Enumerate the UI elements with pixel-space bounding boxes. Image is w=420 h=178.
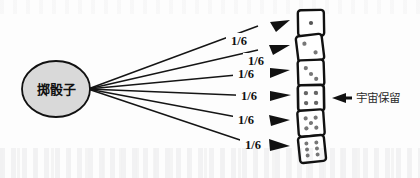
die-face-2[interactable] bbox=[296, 34, 325, 63]
die-body bbox=[298, 135, 327, 164]
branch-line-5 bbox=[88, 89, 258, 121]
branch-arrowheads bbox=[269, 20, 291, 151]
arrowhead-icon-3 bbox=[270, 68, 290, 78]
diagram-canvas: 掷骰子 1/6 1/6 1/6 1/6 1/6 1/6 bbox=[0, 0, 420, 178]
arrowhead-icon-4 bbox=[270, 91, 291, 101]
probability-label-5: 1/6 bbox=[238, 113, 254, 127]
left-arrow-icon bbox=[332, 93, 346, 103]
arrowhead-icon-1 bbox=[270, 20, 290, 32]
die-face-5[interactable] bbox=[297, 109, 325, 137]
branch-line-4 bbox=[88, 89, 258, 96]
annotation-callout[interactable]: 宇宙保留 bbox=[332, 91, 400, 105]
probability-label-2: 1/6 bbox=[248, 54, 264, 68]
arrowhead-icon-6 bbox=[269, 139, 290, 151]
die-face-3[interactable] bbox=[298, 60, 325, 87]
probability-label-6: 1/6 bbox=[245, 138, 261, 152]
branch-line-3 bbox=[88, 73, 258, 89]
die-body bbox=[296, 34, 325, 63]
die-body bbox=[298, 85, 324, 111]
branch-line-2 bbox=[88, 50, 258, 89]
probability-label-1: 1/6 bbox=[231, 34, 247, 48]
left-arrow-shaft bbox=[345, 97, 352, 100]
probability-label-3: 1/6 bbox=[238, 67, 254, 81]
probability-label-4: 1/6 bbox=[241, 89, 257, 103]
branch-line-6 bbox=[88, 89, 258, 146]
probability-labels: 1/6 1/6 1/6 1/6 1/6 1/6 bbox=[226, 33, 269, 152]
probability-tree-diagram: 掷骰子 1/6 1/6 1/6 1/6 1/6 1/6 bbox=[0, 0, 420, 178]
arrowhead-icon-2 bbox=[269, 45, 290, 55]
die-face-1[interactable] bbox=[298, 10, 324, 36]
die-face-4[interactable] bbox=[298, 85, 324, 111]
die-face-6[interactable] bbox=[298, 135, 327, 164]
outcome-dice bbox=[296, 10, 327, 164]
source-node-label: 掷骰子 bbox=[37, 82, 76, 97]
arrowhead-icon-5 bbox=[269, 115, 290, 126]
source-node[interactable]: 掷骰子 bbox=[22, 61, 90, 117]
annotation-label: 宇宙保留 bbox=[356, 91, 400, 105]
